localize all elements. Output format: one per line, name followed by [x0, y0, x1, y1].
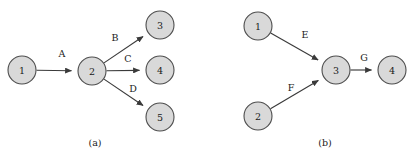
edge-label-e: E [302, 29, 309, 40]
node-label: 2 [255, 111, 261, 122]
graph-diagram-canvas: ABCDEFG 123451234 (a)(b) [0, 0, 414, 159]
edge-label-a: A [58, 48, 66, 59]
figure-container: ABCDEFG 123451234 (a)(b) [0, 0, 414, 159]
edge-label-g: G [360, 52, 368, 63]
graph-edge-a [36, 70, 71, 71]
graph-node-panel-b-4: 4 [378, 56, 406, 84]
node-label: 4 [157, 65, 163, 76]
graph-edge-e [271, 33, 319, 60]
graph-edge-d [104, 79, 143, 105]
panel-caption-panel-a: (a) [88, 137, 101, 148]
graph-node-panel-b-2: 2 [244, 102, 272, 130]
graph-node-panel-a-5: 5 [146, 103, 174, 131]
node-label: 3 [333, 65, 339, 76]
node-label: 3 [157, 20, 163, 31]
edge-label-f: F [288, 82, 295, 93]
edge-label-b: B [112, 32, 119, 43]
node-label: 1 [19, 65, 25, 76]
edge-label-c: C [124, 53, 131, 64]
graph-node-panel-b-3: 3 [322, 56, 350, 84]
node-label: 5 [157, 112, 163, 123]
graph-node-panel-a-4: 4 [146, 56, 174, 84]
graph-node-panel-a-3: 3 [146, 11, 174, 39]
node-label: 2 [89, 66, 95, 77]
captions-layer: (a)(b) [88, 137, 331, 148]
edge-label-d: D [129, 83, 137, 94]
graph-node-panel-a-1: 1 [8, 56, 36, 84]
graph-node-panel-b-1: 1 [244, 12, 272, 40]
graph-edge-f [270, 80, 318, 108]
graph-node-panel-a-2: 2 [78, 57, 106, 85]
node-label: 1 [255, 21, 261, 32]
node-label: 4 [389, 65, 395, 76]
panel-caption-panel-b: (b) [318, 137, 332, 148]
